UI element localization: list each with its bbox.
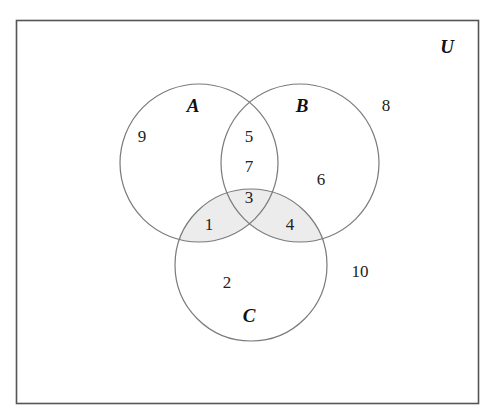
region-value: 9 bbox=[138, 127, 147, 146]
set-label-c: C bbox=[243, 305, 256, 326]
set-label-b: B bbox=[295, 95, 309, 116]
region-value: 7 bbox=[245, 157, 254, 176]
universe-label: U bbox=[440, 36, 455, 57]
region-value: 5 bbox=[245, 127, 254, 146]
region-value: 2 bbox=[223, 273, 232, 292]
region-value: 6 bbox=[317, 170, 326, 189]
region-value: 10 bbox=[352, 262, 369, 281]
region-value: 8 bbox=[382, 96, 391, 115]
set-label-a: A bbox=[186, 95, 200, 116]
region-value: 3 bbox=[245, 188, 254, 207]
venn-diagram: U A B C 9 5 7 6 3 1 4 2 8 10 bbox=[0, 0, 501, 418]
region-value: 1 bbox=[205, 215, 214, 234]
region-value: 4 bbox=[286, 215, 295, 234]
